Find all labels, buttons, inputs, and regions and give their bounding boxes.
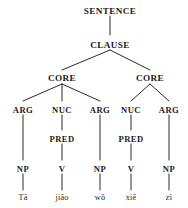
- node-np-3: NP: [163, 165, 175, 174]
- terminal-word-4: xiě: [126, 194, 137, 202]
- edge-coreleft-arg2: [62, 84, 100, 101]
- node-nuc-1: NUC: [52, 106, 72, 115]
- rrg-tree-diagram: SENTENCE CLAUSE CORE CORE ARG NUC ARG NU…: [0, 0, 188, 208]
- node-nuc-2: NUC: [121, 106, 141, 115]
- terminal-word-1: Tā: [18, 194, 27, 202]
- node-v-2: V: [128, 165, 135, 174]
- terminal-word-5: zì: [166, 194, 172, 202]
- terminal-word-2: jiāo: [55, 194, 68, 202]
- node-sentence: SENTENCE: [84, 7, 137, 16]
- node-core-left: CORE: [48, 74, 76, 83]
- edge-coreright-arg3: [150, 84, 169, 101]
- node-core-right: CORE: [136, 74, 164, 83]
- node-arg-3: ARG: [159, 106, 179, 115]
- node-arg-2: ARG: [90, 106, 110, 115]
- node-arg-1: ARG: [13, 106, 33, 115]
- tree-edges: [0, 0, 188, 208]
- node-np-1: NP: [17, 165, 29, 174]
- node-v-1: V: [59, 165, 66, 174]
- edge-coreright-nuc2: [131, 84, 150, 101]
- edge-coreleft-arg1: [23, 84, 62, 101]
- edge-clause-core-left: [62, 50, 110, 70]
- node-pred-1: PRED: [50, 135, 75, 144]
- node-np-2: NP: [94, 165, 106, 174]
- node-pred-2: PRED: [119, 135, 144, 144]
- terminal-word-3: wǒ: [95, 194, 105, 202]
- node-clause: CLAUSE: [90, 41, 130, 50]
- edge-clause-core-right: [110, 50, 150, 70]
